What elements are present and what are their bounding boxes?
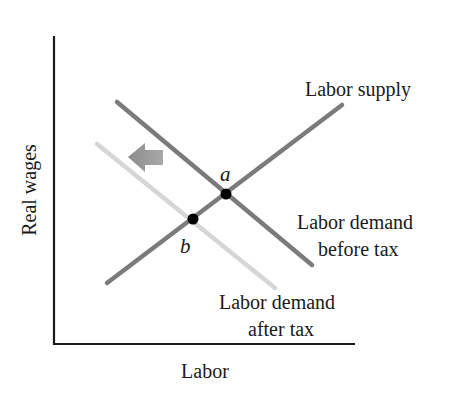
point-a-label: a [220,162,231,186]
labor-market-tax-diagram: a b Labor supply Labor demand before tax… [0,0,467,394]
equilibrium-point-b [188,214,199,225]
diagram-canvas: a b Labor supply Labor demand before tax… [0,0,467,394]
left-arrow-icon [128,143,163,172]
labor-demand-after-tax-curve [97,144,275,288]
labor-demand-before-label-line2: before tax [318,238,399,260]
x-axis-label: Labor [181,360,229,382]
labor-supply-label: Labor supply [305,78,411,101]
equilibrium-point-a [221,189,232,200]
point-b-label: b [180,234,191,258]
y-axis-label: Real wages [18,144,41,236]
labor-demand-after-label-line2: after tax [248,318,314,340]
labor-demand-after-label-line1: Labor demand [219,291,335,313]
labor-demand-before-label-line1: Labor demand [297,211,413,233]
